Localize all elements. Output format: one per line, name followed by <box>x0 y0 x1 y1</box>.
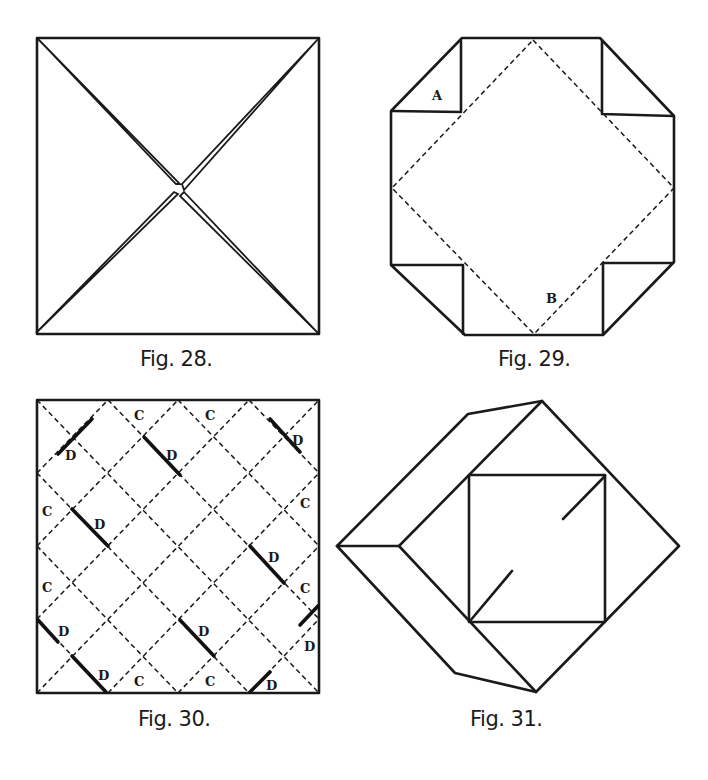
figure-plate: A B <box>0 0 708 780</box>
svg-text:D: D <box>198 624 209 639</box>
fig-31-side-top <box>337 401 542 546</box>
svg-text:C: C <box>300 581 310 596</box>
fig-30-labels: C C D D D C D C D C C D D D D C C D <box>42 408 315 693</box>
fig-28-drawing <box>36 38 319 334</box>
svg-text:D: D <box>98 668 109 683</box>
fig-31-slit-sw <box>470 571 512 621</box>
svg-text:C: C <box>134 674 144 689</box>
svg-text:D: D <box>94 517 105 532</box>
fig-29-octagon <box>391 38 674 335</box>
fig-29-label-a: A <box>431 88 443 103</box>
svg-text:C: C <box>42 504 52 519</box>
svg-text:C: C <box>205 674 215 689</box>
svg-text:D: D <box>268 550 279 565</box>
svg-text:C: C <box>205 408 215 423</box>
svg-text:C: C <box>300 496 310 511</box>
fig-28-caption: Fig. 28. <box>140 347 212 371</box>
fig-29-dashed-diamond <box>392 40 674 334</box>
fig-31-side-bottom <box>337 546 536 692</box>
svg-text:D: D <box>304 639 315 654</box>
svg-text:D: D <box>65 448 76 463</box>
fig-29-drawing: A B <box>391 38 674 335</box>
fig-30-drawing: C C D D D C D C D C C D D D D C C D <box>37 400 319 693</box>
svg-text:C: C <box>42 580 52 595</box>
svg-text:C: C <box>134 408 144 423</box>
fig-29-flap-nw <box>392 41 461 112</box>
fig-31-caption: Fig. 31. <box>470 707 542 731</box>
svg-text:D: D <box>266 678 277 693</box>
fig-30-caption: Fig. 30. <box>138 707 210 731</box>
fig-31-diamond <box>399 401 679 692</box>
fig-30-dashed-grid <box>37 400 319 693</box>
fig-29-label-b: B <box>546 291 557 306</box>
svg-text:D: D <box>166 448 177 463</box>
fig-29-caption: Fig. 29. <box>498 347 570 371</box>
fig-31-slit-ne <box>563 476 605 519</box>
svg-text:D: D <box>58 624 69 639</box>
fig-28-slit-sw <box>36 192 178 333</box>
fig-28-slit-nw <box>38 39 180 184</box>
fig-28-slit-ne <box>182 39 318 190</box>
fig-28-slit-se <box>180 192 318 333</box>
svg-text:D: D <box>292 433 303 448</box>
fig-31-drawing <box>337 401 679 692</box>
